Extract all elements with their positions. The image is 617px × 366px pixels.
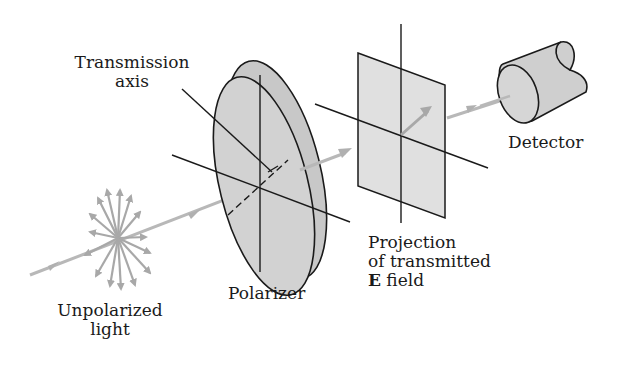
unpolarized-light-star-icon xyxy=(85,190,150,289)
label-line: of transmitted xyxy=(368,252,491,271)
label-line: light xyxy=(40,320,180,339)
e-field-symbol: E xyxy=(368,270,381,290)
label-line-e-field: E field xyxy=(368,271,491,290)
polarization-diagram: Transmission axis Unpolarized light Pola… xyxy=(0,0,617,366)
label-text: Polarizer xyxy=(228,283,305,303)
label-text: Detector xyxy=(508,132,583,152)
e-field-text: field xyxy=(381,270,424,290)
label-line: Transmission xyxy=(62,53,202,72)
label-line: axis xyxy=(62,72,202,91)
label-line: Projection xyxy=(368,233,491,252)
detector-cylinder-icon xyxy=(480,42,587,129)
label-projection: Projection of transmitted E field xyxy=(368,233,491,290)
label-transmission-axis: Transmission axis xyxy=(62,53,202,91)
label-polarizer: Polarizer xyxy=(228,284,305,303)
label-line: Unpolarized xyxy=(40,301,180,320)
projection-panel xyxy=(315,24,488,223)
label-unpolarized-light: Unpolarized light xyxy=(40,301,180,339)
label-detector: Detector xyxy=(508,133,583,152)
